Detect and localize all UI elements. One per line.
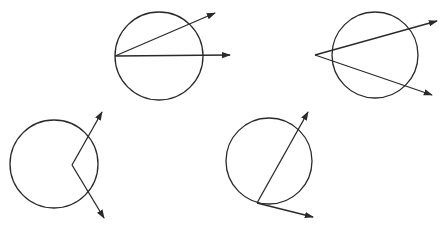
circle xyxy=(226,118,312,204)
ray-arrow-2 xyxy=(72,165,104,218)
diagram-canvas xyxy=(0,0,447,230)
fig-vertex-on-circle-two-secants xyxy=(115,12,230,100)
ray-arrow-1 xyxy=(115,13,215,56)
geometry-diagram xyxy=(0,0,447,230)
ray-arrow-1 xyxy=(257,112,308,203)
circle xyxy=(10,120,98,208)
ray-arrow-2 xyxy=(257,203,313,217)
ray-arrow-2 xyxy=(115,55,230,56)
fig-vertex-on-circle-tangent-chord xyxy=(226,112,313,217)
ray-arrow-1 xyxy=(315,21,437,55)
fig-vertex-inside-circle xyxy=(10,112,104,218)
circle xyxy=(332,12,418,98)
fig-vertex-outside-circle xyxy=(315,12,437,98)
ray-arrow-2 xyxy=(315,55,432,95)
